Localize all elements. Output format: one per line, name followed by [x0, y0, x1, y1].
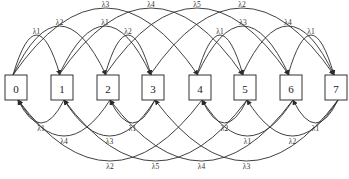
edge-label: λ3	[102, 0, 110, 9]
state-transition-diagram: λ1λ2λ3λ1λ4λ2λ5λ2λ1λ3λ4λ1λ1λ4λ2λ1λ3λ5λ2λ1…	[0, 0, 349, 179]
edge-label: λ2	[56, 18, 64, 27]
edge-6-to-7	[288, 35, 334, 75]
edge-6-to-2	[110, 100, 293, 161]
edge-label: λ2	[106, 162, 114, 171]
edge-4-to-6	[197, 26, 289, 75]
node-label: 0	[13, 83, 19, 95]
edge-3-to-2	[110, 100, 155, 123]
edge-label: λ2	[238, 0, 246, 9]
edge-label: λ4	[60, 137, 68, 146]
edge-label: λ5	[152, 162, 160, 171]
edge-4-to-5	[197, 35, 243, 75]
edge-label: λ1	[129, 124, 137, 133]
state-node-1: 1	[51, 75, 73, 100]
edge-5-to-1	[64, 100, 247, 161]
edge-label: λ5	[193, 0, 201, 9]
edge-label: λ3	[106, 137, 114, 146]
edge-1-to-5	[59, 8, 243, 75]
edge-5-to-7	[242, 26, 334, 75]
node-label: 7	[333, 83, 339, 95]
edge-2-to-3	[105, 35, 151, 75]
edge-0-to-1	[13, 35, 60, 75]
edge-7-to-6	[293, 100, 338, 123]
edge-label: λ1	[33, 27, 41, 36]
edge-1-to-0	[18, 100, 64, 123]
node-label: 5	[242, 83, 248, 95]
node-label: 2	[105, 83, 111, 95]
edge-label: λ2	[221, 124, 229, 133]
edge-4-to-0	[18, 100, 202, 161]
state-node-5: 5	[234, 75, 256, 100]
edge-2-to-0	[18, 100, 110, 136]
edge-label: λ1	[307, 27, 315, 36]
edge-label: λ2	[124, 27, 132, 36]
edge-label: λ1	[216, 27, 224, 36]
edge-label: λ1	[101, 18, 109, 27]
state-node-7: 7	[325, 75, 347, 100]
edge-label: λ3	[243, 162, 251, 171]
edge-label: λ4	[147, 0, 155, 9]
state-node-0: 0	[5, 75, 27, 100]
edge-3-to-1	[64, 100, 155, 136]
node-label: 6	[288, 83, 294, 95]
node-label: 3	[150, 83, 156, 95]
edge-label: λ2	[289, 137, 297, 146]
edge-6-to-4	[202, 100, 293, 136]
edge-label: λ1	[37, 124, 45, 133]
edge-0-to-2	[13, 26, 106, 75]
edge-7-to-3	[155, 100, 338, 161]
edge-2-to-6	[105, 8, 289, 75]
state-node-6: 6	[280, 75, 302, 100]
node-label: 1	[59, 83, 65, 95]
node-label: 4	[197, 83, 203, 95]
edge-1-to-3	[59, 26, 151, 75]
edge-label: λ1	[312, 124, 320, 133]
edge-labels-layer: λ1λ2λ3λ1λ4λ2λ5λ2λ1λ3λ4λ1λ1λ4λ2λ1λ3λ5λ2λ1…	[33, 0, 320, 171]
state-node-2: 2	[97, 75, 119, 100]
edge-label: λ1	[244, 137, 252, 146]
edge-7-to-5	[247, 100, 338, 136]
nodes-layer: 01234567	[5, 75, 347, 100]
edge-label: λ4	[198, 162, 206, 171]
state-node-3: 3	[142, 75, 164, 100]
edge-label: λ3	[239, 18, 247, 27]
edge-label: λ4	[284, 18, 292, 27]
edge-5-to-4	[202, 100, 247, 123]
state-node-4: 4	[189, 75, 211, 100]
